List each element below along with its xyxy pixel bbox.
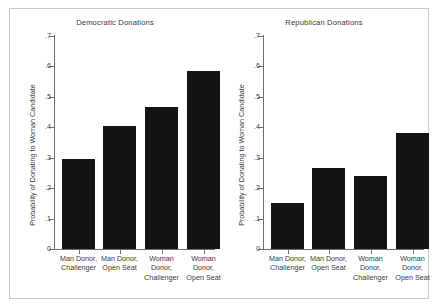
x-axis-label: Man Donor, Challenger bbox=[56, 254, 102, 273]
x-axis-label: Woman Donor, Challenger bbox=[139, 254, 185, 282]
y-axis-label-box-democratic: Probability of Donating to Woman Candida… bbox=[24, 9, 36, 300]
x-axis-label: Man Donor, Challenger bbox=[265, 254, 311, 273]
panel-title-republican: Republican Donations bbox=[219, 18, 429, 27]
y-tick-label: .1 bbox=[45, 214, 51, 223]
y-tick-label: .5 bbox=[45, 92, 51, 101]
y-tick-label: .3 bbox=[45, 153, 51, 162]
y-axis-label-box-republican: Probability of Donating to Woman Candida… bbox=[233, 9, 245, 300]
y-tick-label: 0 bbox=[256, 244, 260, 253]
chart-panel-democratic: Democratic Donations Probability of Dona… bbox=[10, 9, 220, 300]
y-tick-label: .4 bbox=[45, 122, 51, 131]
bar bbox=[62, 159, 95, 249]
bar bbox=[354, 176, 387, 249]
x-axis-label: Man Donor, Open Seat bbox=[306, 254, 352, 273]
x-axis-label: Woman Donor, Open Seat bbox=[390, 254, 436, 282]
y-tick-label: .6 bbox=[254, 61, 260, 70]
bar bbox=[103, 126, 136, 249]
bar bbox=[187, 71, 220, 249]
y-tick-label: .6 bbox=[45, 61, 51, 70]
y-tick-label: .5 bbox=[254, 92, 260, 101]
chart-panel-republican: Republican Donations Probability of Dona… bbox=[219, 9, 429, 300]
panel-title-democratic: Democratic Donations bbox=[10, 18, 220, 27]
y-tick-label: .2 bbox=[254, 183, 260, 192]
y-tick-label: .3 bbox=[254, 153, 260, 162]
y-axis-label-democratic: Probability of Donating to Woman Candida… bbox=[28, 84, 37, 226]
x-axis-label: Man Donor, Open Seat bbox=[97, 254, 143, 273]
y-tick-label: .7 bbox=[254, 31, 260, 40]
bar bbox=[145, 107, 178, 249]
y-tick-label: 0 bbox=[47, 244, 51, 253]
y-tick-label: .2 bbox=[45, 183, 51, 192]
figure-frame: Democratic Donations Probability of Dona… bbox=[9, 8, 429, 299]
y-tick-label: .7 bbox=[45, 31, 51, 40]
plot-area-republican: 0.1.2.3.4.5.6.7 bbox=[263, 36, 422, 249]
x-axis-label: Woman Donor, Challenger bbox=[348, 254, 394, 282]
y-axis-label-republican: Probability of Donating to Woman Candida… bbox=[237, 84, 246, 226]
y-tick-label: .1 bbox=[254, 214, 260, 223]
plot-area-democratic: 0.1.2.3.4.5.6.7 bbox=[54, 36, 213, 249]
bar bbox=[271, 203, 304, 249]
y-tick-label: .4 bbox=[254, 122, 260, 131]
bar bbox=[396, 133, 429, 249]
bar bbox=[312, 168, 345, 249]
